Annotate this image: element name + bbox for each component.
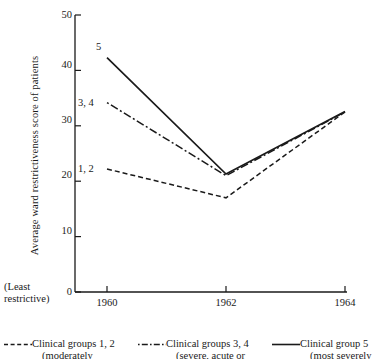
legend-label-groups-3-4: Clinical groups 3, 4 [166,338,249,350]
series-lines [107,58,345,198]
series-line [107,103,345,176]
y-axis-ticks [75,15,81,292]
legend-label-group-5: Clinical group 5 [300,338,375,350]
y-tick-label-10: 10 [46,226,72,236]
axis-note-line-2: restrictive) [4,293,74,305]
series-tag-5: 5 [96,41,101,52]
y-tick-label-20: 20 [46,170,72,180]
y-tick-label-30: 30 [46,115,72,125]
y-tick-label-40: 40 [46,60,72,70]
legend-sublabel-groups-1-2: (moderately [32,350,115,359]
chart-legend: Clinical groups 1, 2 (moderately Clinica… [0,338,375,359]
y-axis-title: Average ward restrictiveness score of pa… [29,41,40,271]
legend-sublabel-groups-3-4: (severe, acute or [166,350,249,359]
axis-note-line-1: (Least [4,281,74,293]
x-tick-label-1960: 1960 [87,297,127,308]
axis-note-least-restrictive: (Least restrictive) [4,281,74,304]
series-line [107,58,345,174]
legend-swatch-dashed-icon [4,339,32,350]
y-tick-label-50: 50 [46,10,72,20]
legend-label-groups-1-2: Clinical groups 1, 2 [32,338,115,350]
x-tick-label-1962: 1962 [206,297,246,308]
legend-item-group-5[interactable]: Clinical group 5 (most severely at [272,338,375,359]
legend-item-groups-3-4[interactable]: Clinical groups 3, 4 (severe, acute or [138,338,249,359]
legend-sublabel-group-5: (most severely at [300,350,375,359]
series-tag-1-2: 1, 2 [78,163,94,174]
legend-swatch-dash-dot-icon [138,339,166,350]
chart-figure: 50 40 30 20 10 0 1960 1962 1964 Average … [0,0,375,359]
legend-item-groups-1-2[interactable]: Clinical groups 1, 2 (moderately [4,338,115,359]
series-tag-3-4: 3, 4 [78,97,94,108]
x-axis-ticks [107,286,345,292]
y-tick-labels: 50 40 30 20 10 0 [46,0,72,320]
x-tick-label-1964: 1964 [325,297,365,308]
legend-swatch-solid-icon [272,339,300,350]
